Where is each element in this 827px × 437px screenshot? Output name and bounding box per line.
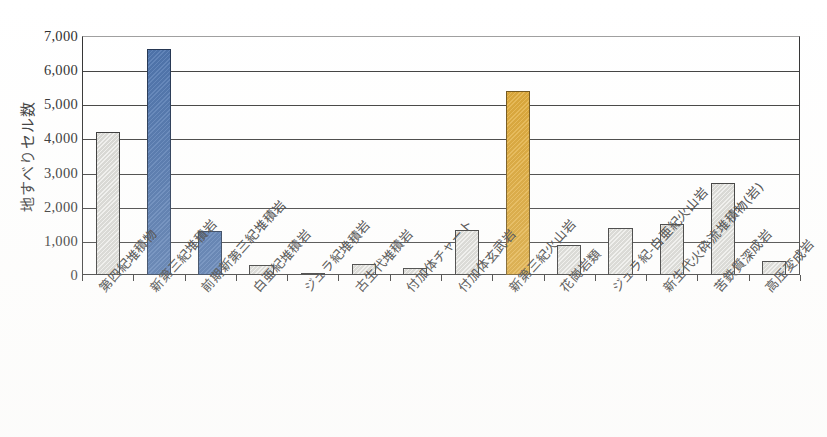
y-axis-tick-labels: 7,0006,0005,0004,0003,0002,0001,0000 <box>36 28 82 283</box>
x-axis-category-labels: 第四紀堆積物新第三紀堆積岩前期新第三紀堆積岩白亜紀堆積岩ジュラ紀堆積岩古生代堆積… <box>0 275 827 437</box>
y-axis-tick-label: 3,000 <box>44 164 78 181</box>
bar <box>96 132 120 275</box>
y-axis-tick-label: 1,000 <box>44 232 78 249</box>
y-axis-title-text: 地すべりセル数 <box>16 101 37 212</box>
bar-chart-figure: 地すべりセル数 7,0006,0005,0004,0003,0002,0001,… <box>0 0 827 437</box>
y-axis-title: 地すべりセル数 <box>14 36 38 276</box>
y-axis-tick-label: 4,000 <box>44 130 78 147</box>
y-axis-tick-label: 5,000 <box>44 96 78 113</box>
y-axis-tick-label: 7,000 <box>44 28 78 45</box>
y-axis-tick-label: 6,000 <box>44 62 78 79</box>
y-axis-tick-label: 2,000 <box>44 198 78 215</box>
